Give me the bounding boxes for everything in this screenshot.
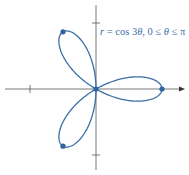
x-axis-arrow-icon [179, 87, 185, 92]
marked-point-1 [60, 29, 65, 34]
label-cos: = cos 3 [104, 26, 137, 37]
marked-point-2 [60, 144, 65, 149]
marked-point-3 [93, 86, 98, 91]
marked-point-0 [159, 86, 164, 91]
label-range2: ≤ π [169, 26, 185, 37]
label-range: , 0 ≤ [142, 26, 164, 37]
equation-label: r = cos 3θ, 0 ≤ θ ≤ π [100, 26, 185, 37]
